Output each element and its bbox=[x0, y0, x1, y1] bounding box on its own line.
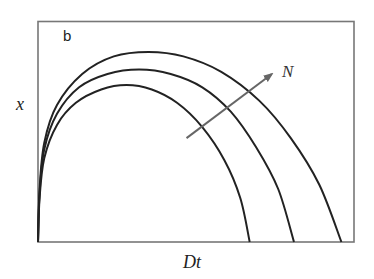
arrow-label-n: N bbox=[281, 62, 295, 81]
curves-group bbox=[38, 52, 341, 242]
curve-1 bbox=[38, 85, 250, 242]
increasing-n-arrow bbox=[187, 74, 272, 138]
panel-label: b bbox=[63, 27, 71, 44]
x-axis-label: Dt bbox=[182, 252, 202, 272]
figure: b x Dt N bbox=[0, 0, 374, 279]
y-axis-label: x bbox=[15, 94, 24, 114]
